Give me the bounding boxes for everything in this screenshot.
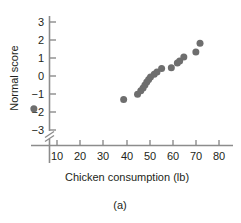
data-point xyxy=(120,96,127,103)
x-axis-tick-labels: 10 20 30 40 50 60 70 80 xyxy=(51,150,225,162)
axes-group xyxy=(31,16,233,163)
data-points-layer xyxy=(30,40,203,113)
data-point xyxy=(30,105,37,112)
x-axis-title: Chicken consumption (lb) xyxy=(65,171,189,183)
y-tick-label: −1 xyxy=(31,88,44,100)
y-tick-label: 3 xyxy=(38,16,44,28)
x-tick-label: 20 xyxy=(74,150,86,162)
data-point xyxy=(197,40,204,47)
y-axis-tick-labels: 3 2 1 0 −1 −2 −3 xyxy=(31,16,44,136)
figure-caption: (a) xyxy=(113,199,126,211)
y-tick-label: 2 xyxy=(38,34,44,46)
y-axis-ticks xyxy=(50,22,56,130)
y-tick-label: 1 xyxy=(38,52,44,64)
x-tick-label: 50 xyxy=(144,150,156,162)
data-point xyxy=(180,53,187,60)
scatter-plot: 3 2 1 0 −1 −2 −3 10 20 30 40 50 60 70 xyxy=(0,0,241,223)
y-tick-label: 0 xyxy=(38,70,44,82)
figure-panel: 3 2 1 0 −1 −2 −3 10 20 30 40 50 60 70 xyxy=(0,0,241,223)
data-point xyxy=(192,48,199,55)
x-tick-label: 60 xyxy=(167,150,179,162)
data-point xyxy=(158,65,165,72)
x-tick-label: 10 xyxy=(51,150,63,162)
x-tick-label: 80 xyxy=(213,150,225,162)
y-axis-title: Normal score xyxy=(8,45,20,110)
x-tick-label: 70 xyxy=(190,150,202,162)
x-tick-label: 40 xyxy=(121,150,133,162)
data-point xyxy=(168,64,175,71)
x-tick-label: 30 xyxy=(97,150,109,162)
y-tick-label: −3 xyxy=(31,124,44,136)
